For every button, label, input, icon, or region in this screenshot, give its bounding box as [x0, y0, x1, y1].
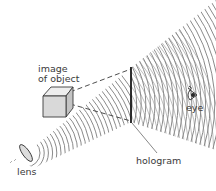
image-of-object-label: image of object	[38, 64, 79, 84]
image-of-object-cube	[43, 87, 73, 117]
cube-front-face	[43, 96, 66, 117]
hologram-label: hologram	[136, 156, 181, 166]
image-label-line2: of object	[38, 74, 79, 84]
lens-icon	[10, 143, 35, 163]
lens-label: lens	[17, 167, 36, 177]
diffracted-wavefronts	[0, 0, 216, 191]
diagram-canvas	[0, 0, 216, 191]
hologram-leader-line	[132, 123, 157, 153]
eye-label: eye	[186, 103, 203, 113]
hologram-diagram: image of object eye hologram lens	[0, 0, 216, 191]
